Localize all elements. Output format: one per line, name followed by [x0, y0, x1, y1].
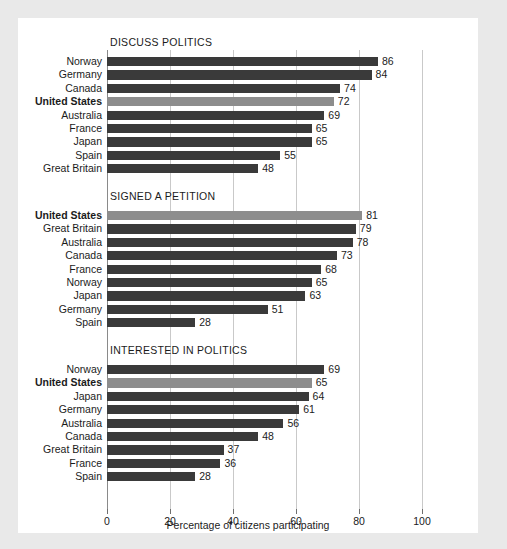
category-label: Australia [61, 109, 107, 122]
bar-value-label: 65 [312, 376, 328, 389]
bar-row: Japan63 [18, 289, 478, 302]
bar-value-label: 78 [353, 236, 369, 249]
bar-row: Germany61 [18, 403, 478, 416]
bar-row: Spain28 [18, 316, 478, 329]
category-label: Canada [65, 249, 107, 262]
bar-row: Spain28 [18, 470, 478, 483]
bar [107, 365, 324, 374]
bar [107, 70, 372, 79]
bar-value-label: 48 [258, 162, 274, 175]
category-label: France [69, 457, 107, 470]
bar-value-label: 28 [195, 316, 211, 329]
bar-value-label: 69 [324, 363, 340, 376]
category-label: Spain [75, 316, 107, 329]
bar [107, 445, 224, 454]
bar-value-label: 81 [362, 209, 378, 222]
bar-row: United States72 [18, 95, 478, 108]
x-tick [170, 509, 171, 514]
category-label: Canada [65, 430, 107, 443]
category-label: Australia [61, 236, 107, 249]
category-label: United States [35, 209, 107, 222]
bar [107, 378, 312, 387]
category-label: Norway [66, 276, 107, 289]
bar-value-label: 65 [312, 276, 328, 289]
bar-value-label: 65 [312, 135, 328, 148]
bar [107, 305, 268, 314]
bar-row: Norway65 [18, 276, 478, 289]
category-label: Australia [61, 417, 107, 430]
bar [107, 392, 309, 401]
bar-row: Norway86 [18, 55, 478, 68]
category-label: Japan [73, 390, 107, 403]
panel-title: DISCUSS POLITICS [110, 36, 212, 48]
category-label: France [69, 122, 107, 135]
bar-row: Norway69 [18, 363, 478, 376]
bar-row: Australia78 [18, 236, 478, 249]
bar-row: United States81 [18, 209, 478, 222]
chart-figure: DISCUSS POLITICSNorway86Germany84Canada7… [18, 18, 478, 533]
chart-panel: SIGNED A PETITIONUnited States81Great Br… [18, 204, 478, 345]
x-axis-title: Percentage of citizens participating [18, 519, 478, 531]
category-label: United States [35, 376, 107, 389]
bar-value-label: 79 [356, 222, 372, 235]
x-tick [359, 509, 360, 514]
bar-value-label: 56 [283, 417, 299, 430]
category-label: Canada [65, 82, 107, 95]
x-tick [107, 509, 108, 514]
category-label: Norway [66, 55, 107, 68]
x-tick [233, 509, 234, 514]
category-label: United States [35, 95, 107, 108]
bar [107, 251, 337, 260]
bar [107, 151, 280, 160]
bar-row: Australia69 [18, 109, 478, 122]
bar [107, 97, 334, 106]
x-tick [422, 509, 423, 514]
bar-value-label: 74 [340, 82, 356, 95]
bar [107, 84, 340, 93]
chart-panel: DISCUSS POLITICSNorway86Germany84Canada7… [18, 50, 478, 191]
x-tick [296, 509, 297, 514]
bar [107, 459, 220, 468]
bar-value-label: 69 [324, 109, 340, 122]
bar-value-label: 51 [268, 303, 284, 316]
category-label: Great Britain [43, 443, 107, 456]
bar [107, 238, 353, 247]
category-label: Great Britain [43, 222, 107, 235]
bar [107, 278, 312, 287]
bar-value-label: 64 [309, 390, 325, 403]
category-label: Spain [75, 149, 107, 162]
bar-row: Spain55 [18, 149, 478, 162]
bar [107, 211, 362, 220]
bar-row: Germany84 [18, 68, 478, 81]
bar-row: France65 [18, 122, 478, 135]
bar-row: Great Britain48 [18, 162, 478, 175]
bar-value-label: 68 [321, 263, 337, 276]
bar [107, 265, 321, 274]
chart-panel: INTERESTED IN POLITICSNorway69United Sta… [18, 358, 478, 499]
bar-value-label: 63 [305, 289, 321, 302]
category-label: Norway [66, 363, 107, 376]
category-label: Germany [59, 403, 107, 416]
bar-value-label: 48 [258, 430, 274, 443]
bar-value-label: 55 [280, 149, 296, 162]
bar [107, 57, 378, 66]
bar-row: Canada48 [18, 430, 478, 443]
bar-value-label: 28 [195, 470, 211, 483]
bar [107, 419, 283, 428]
panel-title: SIGNED A PETITION [110, 190, 215, 202]
category-label: Japan [73, 289, 107, 302]
bar-row: Japan64 [18, 390, 478, 403]
bar-value-label: 37 [224, 443, 240, 456]
bar [107, 291, 305, 300]
bar-value-label: 65 [312, 122, 328, 135]
bar-row: Great Britain79 [18, 222, 478, 235]
panel-title: INTERESTED IN POLITICS [110, 344, 247, 356]
bar-row: Australia56 [18, 417, 478, 430]
bar [107, 111, 324, 120]
bar [107, 164, 258, 173]
category-label: France [69, 263, 107, 276]
category-label: Japan [73, 135, 107, 148]
bar-row: Canada73 [18, 249, 478, 262]
bar-value-label: 86 [378, 55, 394, 68]
bar [107, 405, 299, 414]
